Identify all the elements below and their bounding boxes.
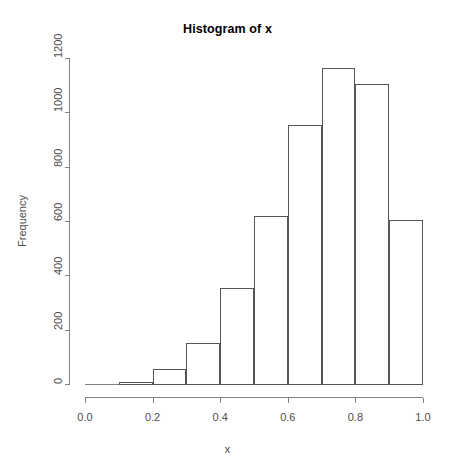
x-tick-label: 0.2 <box>145 411 160 423</box>
histogram-bar <box>119 382 152 384</box>
histogram-bar <box>255 217 288 385</box>
y-axis <box>65 58 70 385</box>
x-axis <box>85 398 424 403</box>
x-tick-label: 0.6 <box>280 411 295 423</box>
x-tick-label: 0.4 <box>213 411 228 423</box>
x-tick-label: 0.0 <box>77 411 92 423</box>
plot-canvas <box>0 0 455 471</box>
histogram-plot-area: Histogram of x 0.00.20.40.60.81.0 020040… <box>0 0 455 471</box>
x-tick-label: 0.8 <box>348 411 363 423</box>
histogram-bar <box>390 220 423 384</box>
histogram-bar <box>187 344 220 385</box>
x-axis-label: x <box>0 443 455 455</box>
x-tick-label: 1.0 <box>415 411 430 423</box>
histogram-bar <box>153 370 186 385</box>
y-axis-label: Frequency <box>16 195 28 247</box>
histogram-bars <box>85 68 423 384</box>
histogram-bar <box>288 125 321 384</box>
histogram-bar <box>221 288 254 384</box>
histogram-bar <box>322 68 355 384</box>
histogram-bar <box>356 84 389 384</box>
